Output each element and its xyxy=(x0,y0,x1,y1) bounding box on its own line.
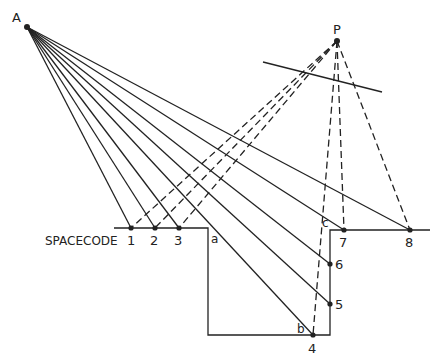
rays-from-p xyxy=(131,41,410,335)
label-1: 1 xyxy=(127,233,135,248)
point-a-marker xyxy=(24,24,30,30)
label-corner-c: c xyxy=(322,216,329,230)
label-corner-a: a xyxy=(211,232,218,246)
rays-from-a xyxy=(27,27,410,335)
label-7: 7 xyxy=(339,235,347,250)
label-4: 4 xyxy=(308,341,316,356)
label-a: A xyxy=(12,10,21,25)
label-8: 8 xyxy=(405,235,413,250)
label-6: 6 xyxy=(335,257,343,272)
label-3: 3 xyxy=(174,233,182,248)
surface-profile xyxy=(114,228,430,335)
label-p: P xyxy=(333,22,341,37)
label-5: 5 xyxy=(335,297,343,312)
label-2: 2 xyxy=(150,233,158,248)
point-p-marker xyxy=(334,38,340,44)
diagram-canvas: A P SPACECODE 1 2 3 4 5 6 7 8 a b c xyxy=(0,0,440,363)
spacecode-diagram: A P SPACECODE 1 2 3 4 5 6 7 8 a b c xyxy=(0,0,440,363)
label-corner-b: b xyxy=(297,322,305,336)
spacecode-label: SPACECODE xyxy=(45,234,118,248)
picture-plane-line xyxy=(263,62,382,92)
